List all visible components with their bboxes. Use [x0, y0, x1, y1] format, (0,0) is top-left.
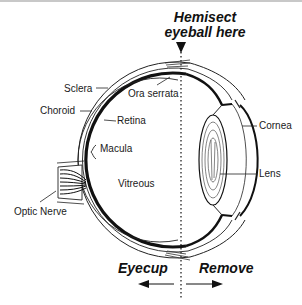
direction-remove: Remove	[199, 261, 253, 276]
optic-nerve-shape	[57, 161, 86, 204]
label-sclera: Sclera	[64, 83, 92, 94]
label-optic-nerve: Optic Nerve	[14, 206, 67, 217]
retina-line	[78, 78, 178, 242]
retina-leader	[104, 120, 116, 121]
cut-indicator-arrow-icon	[176, 42, 186, 53]
label-ora-serrata: Ora serrata	[128, 88, 179, 99]
hemisect-title-line2: eyeball here	[150, 25, 260, 40]
macula-bracket	[91, 145, 96, 159]
label-retina: Retina	[117, 115, 146, 126]
label-macula: Macula	[100, 143, 132, 154]
lens-shape	[199, 105, 227, 215]
cornea-outline	[240, 105, 258, 216]
hemisect-title-line1: Hemisect	[150, 10, 260, 25]
label-cornea: Cornea	[259, 120, 292, 131]
direction-eyecup: Eyecup	[118, 261, 168, 276]
label-lens: Lens	[259, 168, 281, 179]
eyecup-arrow-icon	[138, 280, 174, 288]
optic-nerve-leader	[40, 191, 56, 202]
choroid-band	[86, 73, 186, 247]
label-choroid: Choroid	[40, 105, 75, 116]
remove-arrow-icon	[186, 280, 223, 288]
label-vitreous: Vitreous	[118, 178, 155, 189]
